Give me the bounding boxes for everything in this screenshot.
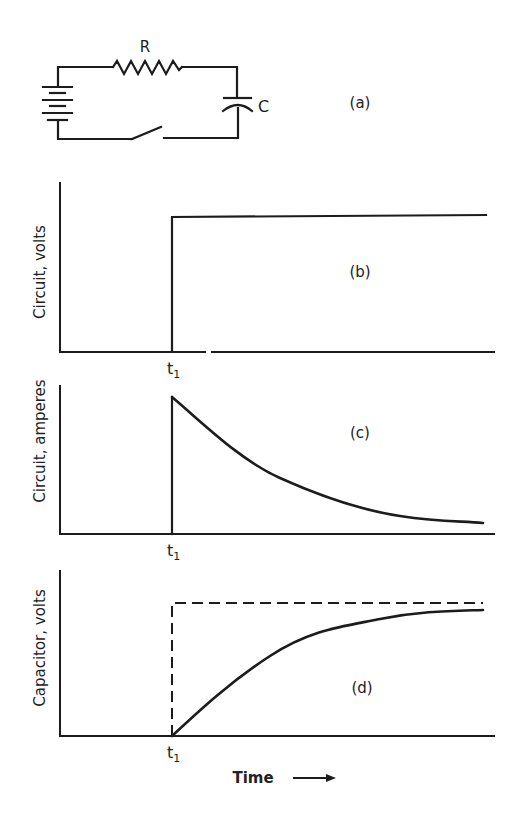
resistor-label: R (140, 38, 150, 56)
panel-label-a: (a) (350, 94, 371, 112)
y-axis-label: Circuit, volts (31, 225, 49, 319)
tick-t1: t1 (167, 743, 180, 765)
resistor-icon (113, 61, 182, 74)
tick-t1: t1 (167, 359, 180, 381)
wire-top-right (182, 67, 237, 98)
arrow-right-icon (293, 774, 336, 782)
circuit-diagram: R C (a) (43, 38, 370, 139)
chart-circuit-amperes: (c) Circuit, amperes t1 (31, 379, 495, 563)
rc-circuit-figure: R C (a) (b) Circuit, volts t1 (0, 0, 520, 814)
panel-label-c: (c) (350, 424, 370, 442)
time-axis-label: Time (232, 769, 336, 787)
wire-top-left (58, 67, 113, 86)
capacitor-label: C (258, 97, 269, 116)
chart-capacitor-volts: (d) Capacitor, volts t1 (31, 570, 495, 765)
battery-icon (43, 87, 72, 120)
x-axis-label: Time (232, 769, 273, 787)
capacitor-charge-curve (172, 610, 483, 736)
y-axis-label: Capacitor, volts (31, 589, 49, 707)
chart-circuit-volts: (b) Circuit, volts t1 (31, 182, 495, 381)
step-voltage-line (172, 215, 486, 352)
wire-bottom-right (164, 108, 238, 138)
tick-t1: t1 (167, 541, 180, 563)
wire-bottom-left (58, 120, 132, 139)
panel-label-b: (b) (349, 263, 370, 281)
source-voltage-dashed-line (172, 603, 483, 736)
panel-label-d: (d) (351, 679, 372, 697)
current-decay-curve (172, 397, 483, 523)
y-axis-label: Circuit, amperes (31, 379, 49, 502)
switch-icon (132, 127, 161, 139)
